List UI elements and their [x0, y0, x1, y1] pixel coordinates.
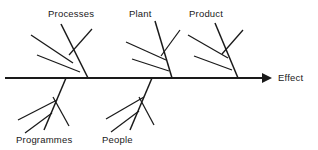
sub-bone	[37, 55, 80, 72]
fishbone-canvas: Effect Processes Plant Product	[0, 0, 318, 150]
sub-bone	[222, 30, 243, 54]
category-label-people: People	[102, 134, 133, 145]
effect-label: Effect	[278, 72, 303, 83]
category-label-processes: Processes	[48, 8, 94, 19]
sub-bone	[126, 42, 166, 60]
category-group-people: People	[102, 78, 154, 145]
fishbone-diagram: Effect Processes Plant Product	[0, 0, 318, 150]
sub-bone	[25, 113, 52, 133]
main-bone-people	[130, 78, 152, 130]
sub-bone	[53, 97, 69, 126]
main-bone-programmes	[44, 78, 66, 130]
sub-bone	[69, 29, 92, 55]
sub-bone	[161, 30, 180, 56]
category-label-programmes: Programmes	[16, 134, 72, 145]
category-label-plant: Plant	[129, 8, 152, 19]
sub-bone	[31, 35, 73, 63]
category-group-plant: Plant	[126, 8, 180, 78]
category-group-processes: Processes	[31, 8, 94, 78]
category-label-product: Product	[189, 8, 223, 19]
effect-arrow-icon	[262, 73, 272, 83]
category-group-programmes: Programmes	[16, 78, 72, 145]
main-bone-product	[215, 23, 238, 78]
sub-bone	[106, 97, 144, 119]
sub-bone	[194, 56, 232, 70]
sub-bone	[139, 97, 154, 125]
category-group-product: Product	[188, 8, 243, 78]
sub-bone	[18, 100, 57, 120]
sub-bone	[132, 59, 169, 71]
